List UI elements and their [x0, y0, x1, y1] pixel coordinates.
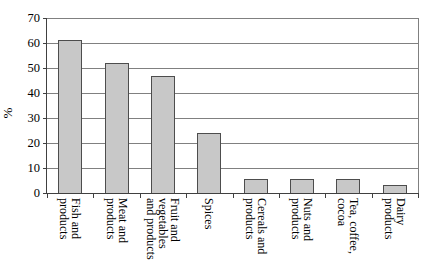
y-tick-label-40: 40: [6, 86, 40, 100]
x-label-cereals-and-products: Cereals and products: [244, 198, 268, 254]
x-tick-7: [372, 194, 373, 198]
y-tick-label-10: 10: [6, 161, 40, 175]
x-label-spices: Spices: [203, 198, 215, 229]
x-label-nuts-and-products: Nuts and products: [290, 198, 314, 241]
bar-fruit-and-vegetables-and-products: [151, 76, 175, 193]
x-label-fish-and-products: Fish and products: [58, 198, 82, 239]
gridline-20: [47, 143, 418, 144]
x-tick-6: [325, 194, 326, 198]
gridline-30: [47, 118, 418, 119]
bar-chart: % 010203040506070Fish and productsMeat a…: [0, 0, 433, 263]
bar-fish-and-products: [58, 40, 82, 193]
gridline-10: [47, 168, 418, 169]
x-tick-5: [279, 194, 280, 198]
bar-meat-and-products: [105, 63, 129, 193]
y-tick-label-60: 60: [6, 36, 40, 50]
x-label-meat-and-products: Meat and products: [105, 198, 129, 243]
y-tick-label-70: 70: [6, 11, 40, 25]
bar-nuts-and-products: [290, 179, 314, 193]
x-label-tea-coffee-cocoa: Tea, coffee, cocoa: [336, 198, 360, 254]
x-tick-8: [418, 194, 419, 198]
y-axis-line: [46, 18, 47, 193]
x-tick-1: [93, 194, 94, 198]
bar-cereals-and-products: [244, 179, 268, 193]
gridline-40: [47, 93, 418, 94]
gridline-60: [47, 43, 418, 44]
gridline-70: [47, 18, 418, 19]
bar-spices: [197, 133, 221, 193]
x-tick-3: [186, 194, 187, 198]
y-tick-label-20: 20: [6, 136, 40, 150]
x-label-dairy-products: Dairy products: [383, 198, 407, 239]
bar-tea-coffee-cocoa: [336, 179, 360, 193]
y-tick-label-50: 50: [6, 61, 40, 75]
gridline-50: [47, 68, 418, 69]
x-tick-4: [233, 194, 234, 198]
x-tick-2: [140, 194, 141, 198]
bar-dairy-products: [383, 185, 407, 193]
y-tick-label-0: 0: [6, 186, 40, 200]
plot-right-border: [418, 18, 419, 193]
x-label-fruit-and-vegetables-and-products: Fruit and vegetables and products: [145, 198, 181, 260]
y-tick-label-30: 30: [6, 111, 40, 125]
x-tick-0: [47, 194, 48, 198]
